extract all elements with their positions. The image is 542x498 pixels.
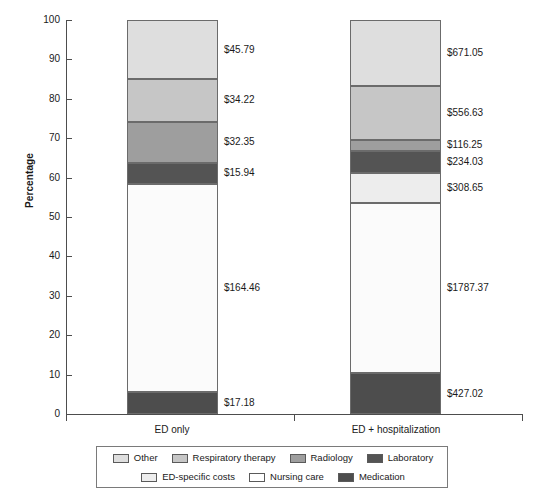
bar-segment-value-label: $32.35: [224, 136, 255, 147]
legend-label: ED-specific costs: [162, 472, 235, 482]
bar-segment-value-label: $164.46: [224, 282, 260, 293]
bar-segment-value-label: $234.03: [447, 156, 483, 167]
y-axis-tick-10: [66, 375, 72, 376]
bar-segment-radiology[interactable]: [350, 140, 441, 151]
x-axis-tick-right: [522, 415, 523, 421]
legend-item-radiology[interactable]: Radiology: [290, 453, 353, 463]
bar-segment-value-label: $34.22: [224, 94, 255, 105]
legend-swatch-icon: [172, 454, 188, 463]
bar-segment-other[interactable]: [350, 20, 441, 86]
y-axis-tick-100: [66, 20, 72, 21]
y-axis-tick-80: [66, 99, 72, 100]
bar-segment-value-label: $556.63: [447, 107, 483, 118]
legend-item-nursing-care[interactable]: Nursing care: [249, 472, 324, 482]
legend-label: Other: [134, 453, 158, 463]
x-axis-tick-mid: [294, 415, 295, 421]
bar-segment-other[interactable]: [127, 20, 218, 79]
y-axis-tick-30: [66, 296, 72, 297]
bar-segment-value-label: $15.94: [224, 167, 255, 178]
bar-segment-value-label: $116.25: [447, 139, 482, 150]
bar-segment-laboratory[interactable]: [127, 163, 218, 183]
bar-segment-nursing-care[interactable]: [350, 203, 441, 373]
bar-segment-medication[interactable]: [350, 373, 441, 414]
stacked-bar-chart: Percentage 1009080706050403020100 ED onl…: [0, 0, 542, 498]
legend-label: Laboratory: [388, 453, 433, 463]
x-category-label-ed-only: ED only: [92, 424, 252, 435]
bar-segment-radiology[interactable]: [127, 122, 218, 163]
bar-segment-value-label: $308.65: [447, 182, 483, 193]
legend-item-ed-specific-costs[interactable]: ED-specific costs: [141, 472, 235, 482]
y-axis-tick-label-90: 90: [34, 54, 60, 64]
legend-item-respiratory-therapy[interactable]: Respiratory therapy: [172, 453, 276, 463]
legend-label: Nursing care: [270, 472, 324, 482]
legend-item-medication[interactable]: Medication: [338, 472, 405, 482]
legend-row-bottom: ED-specific costsNursing careMedication: [97, 468, 449, 486]
y-axis-tick-label-0: 0: [34, 409, 60, 419]
y-axis-tick-label-20: 20: [34, 330, 60, 340]
y-axis-tick-label-100: 100: [34, 15, 60, 25]
bar-ed-hospitalization[interactable]: $671.05$556.63$116.25$234.03$308.65$1787…: [350, 20, 441, 414]
y-axis-tick-label-50: 50: [34, 212, 60, 222]
bar-segment-respiratory-therapy[interactable]: [127, 79, 218, 122]
y-axis-tick-label-60: 60: [34, 173, 60, 183]
y-axis-tick-60: [66, 178, 72, 179]
legend: OtherRespiratory therapyRadiologyLaborat…: [96, 446, 448, 488]
y-axis-tick-40: [66, 256, 72, 257]
y-axis-tick-90: [66, 59, 72, 60]
bar-segment-value-label: $17.18: [224, 397, 255, 408]
legend-swatch-icon: [367, 454, 383, 463]
y-axis-title: Percentage: [24, 126, 35, 236]
y-axis-tick-50: [66, 217, 72, 218]
legend-label: Medication: [359, 472, 405, 482]
bar-segment-value-label: $45.79: [224, 44, 255, 55]
bar-ed-only[interactable]: $45.79$34.22$32.35$15.94$164.46$17.18: [127, 20, 218, 414]
legend-swatch-icon: [113, 454, 129, 463]
bar-segment-value-label: $1787.37: [447, 282, 489, 293]
y-axis-tick-20: [66, 335, 72, 336]
y-axis-tick-label-40: 40: [34, 251, 60, 261]
bar-segment-value-label: $427.02: [447, 388, 483, 399]
bar-segment-medication[interactable]: [127, 392, 218, 414]
y-axis-tick-label-80: 80: [34, 94, 60, 104]
x-axis-tick-left: [66, 415, 67, 421]
legend-item-laboratory[interactable]: Laboratory: [367, 453, 433, 463]
y-axis-tick-label-70: 70: [34, 133, 60, 143]
legend-label: Respiratory therapy: [193, 453, 276, 463]
y-axis-tick-label-10: 10: [34, 370, 60, 380]
bar-segment-nursing-care[interactable]: [127, 184, 218, 393]
legend-item-other[interactable]: Other: [113, 453, 158, 463]
bar-segment-respiratory-therapy[interactable]: [350, 86, 441, 140]
legend-swatch-icon: [338, 473, 354, 482]
y-axis-tick-70: [66, 138, 72, 139]
legend-swatch-icon: [249, 473, 265, 482]
bar-segment-ed-specific-costs[interactable]: [350, 173, 441, 203]
bar-segment-laboratory[interactable]: [350, 151, 441, 173]
x-category-label-ed-hospitalization: ED + hospitalization: [316, 424, 476, 435]
bar-segment-value-label: $671.05: [447, 47, 483, 58]
legend-swatch-icon: [141, 473, 157, 482]
legend-label: Radiology: [311, 453, 353, 463]
legend-swatch-icon: [290, 454, 306, 463]
y-axis-tick-label-30: 30: [34, 291, 60, 301]
legend-row-top: OtherRespiratory therapyRadiologyLaborat…: [97, 449, 449, 467]
